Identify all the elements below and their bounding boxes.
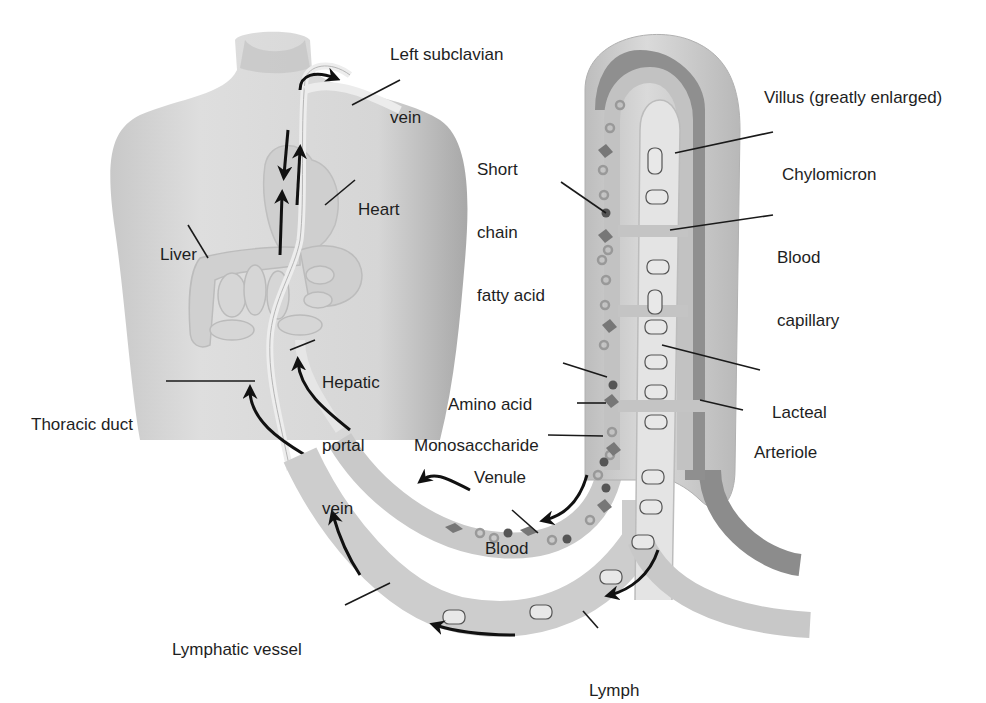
label-lymph: Lymph bbox=[589, 638, 639, 703]
label-short-chain-fatty-acid: Short chain fatty acid bbox=[477, 117, 545, 327]
label-liver: Liver bbox=[160, 202, 197, 286]
label-villus-title: Villus (greatly enlarged) bbox=[764, 45, 942, 129]
label-blood: Blood bbox=[485, 496, 528, 580]
lacteal-vessel bbox=[635, 100, 680, 600]
label-hepatic-portal-vein: Hepatic portal vein bbox=[322, 330, 380, 540]
label-thoracic-duct: Thoracic duct bbox=[31, 372, 133, 456]
label-arteriole: Arteriole bbox=[754, 400, 817, 484]
label-lymphatic-vessel: Lymphatic vessel bbox=[172, 597, 302, 681]
label-blood-capillary: Blood capillary bbox=[777, 205, 839, 352]
label-heart: Heart bbox=[358, 157, 400, 241]
label-chylomicron: Chylomicron bbox=[782, 122, 876, 206]
